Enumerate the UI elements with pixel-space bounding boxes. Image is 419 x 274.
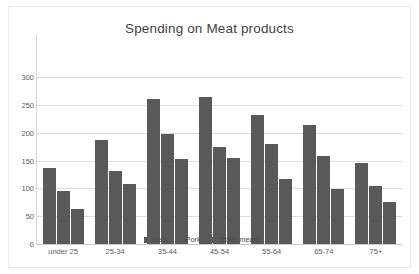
legend-swatch-icon bbox=[177, 237, 183, 243]
x-tick-label: 35-44 bbox=[158, 247, 177, 256]
y-tick-label: 100 bbox=[8, 184, 34, 193]
bar bbox=[213, 147, 226, 244]
chart-figure: Spending on Meat products 05010015020025… bbox=[8, 6, 411, 268]
bar bbox=[95, 140, 108, 244]
x-tick-label: 45-54 bbox=[210, 247, 229, 256]
legend-swatch-icon bbox=[210, 237, 216, 243]
bar bbox=[161, 134, 174, 244]
legend-item[interactable]: Other meats bbox=[210, 235, 260, 244]
x-tick-label: 55-64 bbox=[262, 247, 281, 256]
x-tick-label: 75+ bbox=[370, 247, 383, 256]
bar bbox=[383, 202, 396, 244]
legend-swatch-icon bbox=[144, 237, 150, 243]
x-tick-label: under 25 bbox=[48, 247, 78, 256]
y-tick-label: 50 bbox=[8, 212, 34, 221]
bar bbox=[227, 158, 240, 244]
bar bbox=[147, 99, 160, 244]
chart-legend: BeefPorkOther meats bbox=[144, 235, 260, 244]
bar-group bbox=[303, 77, 344, 244]
y-tick-label: 250 bbox=[8, 100, 34, 109]
legend-label: Pork bbox=[185, 235, 200, 244]
bar bbox=[71, 209, 84, 244]
bar-group bbox=[355, 77, 396, 244]
legend-label: Beef bbox=[153, 235, 168, 244]
bar bbox=[317, 156, 330, 244]
x-tick-label: 65-74 bbox=[314, 247, 333, 256]
bar bbox=[57, 191, 70, 244]
gridline-0 bbox=[37, 244, 402, 245]
x-tick-label: 25-34 bbox=[106, 247, 125, 256]
bar-group bbox=[199, 77, 240, 244]
y-axis-tick-labels: 050100150200250300 bbox=[9, 77, 34, 244]
bar bbox=[175, 159, 188, 244]
bar bbox=[109, 171, 122, 244]
bar-group bbox=[251, 77, 292, 244]
legend-item[interactable]: Beef bbox=[144, 235, 168, 244]
y-tick-label: 0 bbox=[8, 240, 34, 249]
bar bbox=[43, 168, 56, 244]
plot-area bbox=[37, 77, 402, 244]
bar bbox=[123, 184, 136, 244]
bar-group bbox=[95, 77, 136, 244]
bar bbox=[331, 189, 344, 244]
bar bbox=[279, 179, 292, 244]
chart-title: Spending on Meat products bbox=[9, 21, 410, 36]
bar bbox=[199, 97, 212, 244]
bar-group bbox=[43, 77, 84, 244]
bar bbox=[355, 163, 368, 244]
legend-item[interactable]: Pork bbox=[177, 235, 201, 244]
bar bbox=[369, 186, 382, 244]
y-tick-label: 200 bbox=[8, 128, 34, 137]
bar bbox=[303, 125, 316, 244]
legend-label: Other meats bbox=[218, 235, 259, 244]
x-axis-tick-labels: under 2525-3435-4445-5455-6465-7475+ bbox=[37, 247, 402, 263]
y-tick-label: 300 bbox=[8, 73, 34, 82]
bar bbox=[251, 115, 264, 244]
y-tick-label: 150 bbox=[8, 156, 34, 165]
bar bbox=[265, 144, 278, 244]
bar-group bbox=[147, 77, 188, 244]
